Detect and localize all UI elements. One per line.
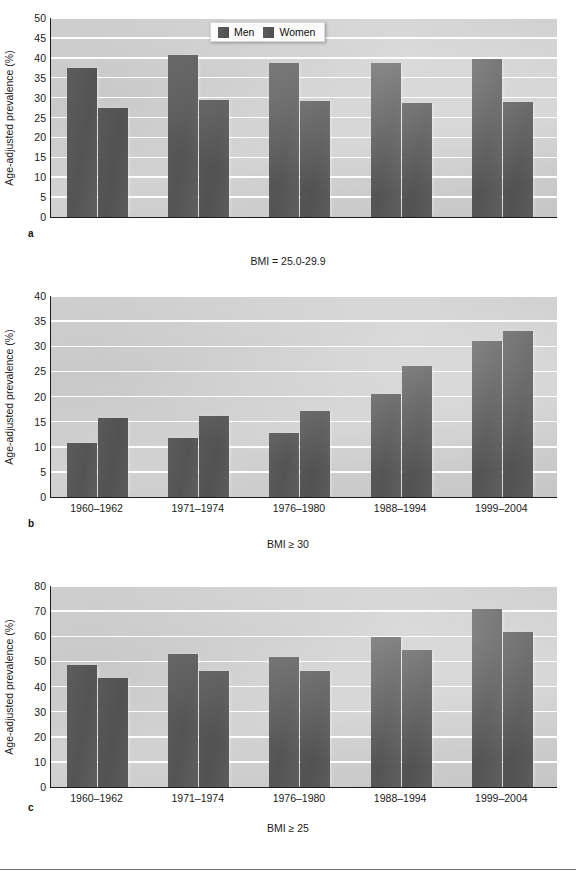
bar-men-1976–1980 — [269, 657, 299, 787]
bar-women-1971–1974 — [199, 416, 229, 497]
y-tick-label: 60 — [34, 631, 46, 642]
legend: Men Women — [210, 22, 325, 42]
plot-area-b — [50, 296, 557, 498]
bar-men-1999–2004 — [472, 59, 502, 217]
x-tick-label: 1960–1962 — [70, 502, 123, 514]
plot-area-a — [50, 18, 557, 218]
bar-women-1999–2004 — [503, 331, 533, 497]
bar-women-1971–1974 — [199, 100, 229, 217]
y-axis-ticks-b: 0510152025303540 — [20, 296, 46, 498]
x-tick-label: 1971–1974 — [171, 502, 224, 514]
panel-a-body: Age-adjusted prevalence (%) 051015202530… — [0, 0, 576, 248]
y-tick-label: 10 — [34, 442, 46, 453]
y-axis-title-text-b: Age-adjusted prevalence (%) — [3, 329, 15, 464]
x-tick-label: 1999–2004 — [475, 502, 528, 514]
figure-bottom-rule — [0, 869, 576, 870]
bar-men-1960–1962 — [67, 443, 97, 497]
y-tick-label: 35 — [34, 72, 46, 83]
y-tick-label: 5 — [40, 467, 46, 478]
y-axis-title-text-c: Age-adjusted prevalence (%) — [3, 619, 15, 754]
legend-item-men: Men — [218, 26, 254, 38]
y-tick-label: 30 — [34, 706, 46, 717]
y-axis-title-b: Age-adjusted prevalence (%) — [0, 296, 18, 498]
x-axis-ticks-b: 1960–19621971–19741976–19801988–19941999… — [50, 502, 557, 518]
y-tick-label: 15 — [34, 416, 46, 427]
y-tick-label: 30 — [34, 92, 46, 103]
legend-item-women: Women — [263, 26, 315, 38]
panel-caption-b: BMI ≥ 30 — [0, 538, 576, 550]
y-tick-label: 5 — [40, 192, 46, 203]
bar-women-1988–1994 — [402, 366, 432, 497]
x-tick-label: 1988–1994 — [374, 792, 427, 804]
panel-letter-b: b — [28, 518, 34, 529]
x-tick-label: 1960–1962 — [70, 792, 123, 804]
panel-a: Age-adjusted prevalence (%) 051015202530… — [0, 0, 576, 248]
y-tick-label: 0 — [40, 212, 46, 223]
bar-men-1988–1994 — [371, 63, 401, 217]
x-tick-label: 1999–2004 — [475, 792, 528, 804]
y-tick-label: 40 — [34, 53, 46, 64]
bar-women-1988–1994 — [402, 650, 432, 787]
legend-label-women: Women — [279, 26, 315, 38]
y-tick-label: 20 — [34, 132, 46, 143]
bar-men-1999–2004 — [472, 341, 502, 497]
y-tick-label: 25 — [34, 112, 46, 123]
y-axis-ticks-c: 01020304050607080 — [20, 586, 46, 788]
bar-women-1988–1994 — [402, 103, 432, 217]
gridline — [51, 18, 557, 19]
panel-caption-c: BMI ≥ 25 — [0, 822, 576, 834]
x-tick-label: 1976–1980 — [273, 792, 326, 804]
bar-women-1971–1974 — [199, 671, 229, 787]
bar-women-1976–1980 — [300, 101, 330, 217]
legend-swatch-men-icon — [218, 27, 229, 38]
y-tick-label: 15 — [34, 152, 46, 163]
bar-women-1960–1962 — [98, 108, 128, 217]
plot-area-c — [50, 586, 557, 788]
x-tick-label: 1988–1994 — [374, 502, 427, 514]
figure-root: Age-adjusted prevalence (%) 051015202530… — [0, 0, 576, 872]
bar-men-1988–1994 — [371, 394, 401, 498]
bar-men-1999–2004 — [472, 609, 502, 787]
bar-men-1960–1962 — [67, 665, 97, 787]
bar-men-1971–1974 — [168, 438, 198, 497]
x-tick-label: 1971–1974 — [171, 792, 224, 804]
y-tick-label: 10 — [34, 172, 46, 183]
y-tick-label: 50 — [34, 656, 46, 667]
panel-letter-a: a — [28, 228, 34, 239]
y-tick-label: 10 — [34, 757, 46, 768]
bar-women-1960–1962 — [98, 678, 128, 787]
y-tick-label: 25 — [34, 366, 46, 377]
bar-men-1960–1962 — [67, 68, 97, 217]
y-tick-label: 0 — [40, 782, 46, 793]
bar-women-1999–2004 — [503, 102, 533, 217]
y-axis-title-a: Age-adjusted prevalence (%) — [0, 18, 18, 218]
bar-women-1960–1962 — [98, 418, 128, 497]
x-axis-ticks-c: 1960–19621971–19741976–19801988–19941999… — [50, 792, 557, 808]
y-tick-label: 40 — [34, 291, 46, 302]
y-axis-title-text-a: Age-adjusted prevalence (%) — [3, 50, 15, 185]
y-tick-label: 20 — [34, 732, 46, 743]
bar-men-1976–1980 — [269, 433, 299, 497]
bar-men-1988–1994 — [371, 637, 401, 787]
panel-c: Age-adjusted prevalence (%) 010203040506… — [0, 580, 576, 810]
y-tick-label: 40 — [34, 681, 46, 692]
bar-men-1971–1974 — [168, 55, 198, 217]
gridline — [51, 296, 557, 297]
bar-women-1976–1980 — [300, 671, 330, 787]
panel-caption-a: BMI = 25.0-29.9 — [0, 255, 576, 267]
bar-men-1971–1974 — [168, 654, 198, 787]
y-tick-label: 70 — [34, 606, 46, 617]
legend-label-men: Men — [234, 26, 254, 38]
y-tick-label: 80 — [34, 581, 46, 592]
panel-c-body: Age-adjusted prevalence (%) 010203040506… — [0, 580, 576, 810]
y-tick-label: 45 — [34, 33, 46, 44]
gridline — [51, 320, 557, 322]
bar-men-1976–1980 — [269, 63, 299, 217]
gridline — [51, 586, 557, 587]
y-tick-label: 35 — [34, 316, 46, 327]
x-tick-label: 1976–1980 — [273, 502, 326, 514]
bar-women-1976–1980 — [300, 411, 330, 497]
y-tick-label: 30 — [34, 341, 46, 352]
y-tick-label: 0 — [40, 492, 46, 503]
bar-women-1999–2004 — [503, 632, 533, 787]
